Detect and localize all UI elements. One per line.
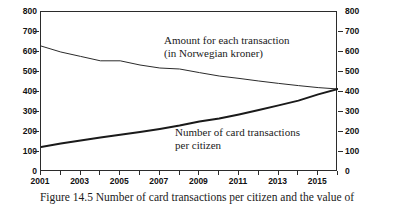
x-tick-label-2011: 2011 [229,177,247,186]
annotation-amount-line: Amount for each transaction (in Norwegia… [164,34,290,59]
x-tick-mark-2016 [337,171,338,175]
y-tick-label-right-500: 500 [345,67,359,75]
x-tick-label-2001: 2001 [31,177,50,186]
x-tick-mark-2005 [119,171,120,175]
annotation-amount-text-2: (in Norwegian kroner) [164,47,290,60]
x-tick-label-2007: 2007 [149,177,168,186]
x-tick-mark-2007 [159,171,160,175]
x-tick-mark-2009 [198,171,199,175]
x-tick-mark-2014 [297,171,298,175]
y-tick-mark-left-200 [34,131,39,132]
y-tick-label-right-600: 600 [345,47,359,55]
x-tick-label-2003: 2003 [70,177,89,186]
y-tick-mark-right-200 [338,131,343,132]
y-tick-mark-right-700 [338,31,343,32]
x-tick-mark-2006 [139,171,140,175]
x-tick-mark-2001 [40,171,41,175]
y-tick-label-right-0: 0 [345,167,350,175]
figure-caption: Figure 14.5 Number of card transactions … [0,190,394,204]
y-tick-label-right-400: 400 [345,87,359,95]
y-tick-label-right-100: 100 [345,147,359,155]
y-tick-mark-left-100 [34,151,39,152]
y-tick-mark-left-300 [34,111,39,112]
y-tick-mark-left-500 [34,71,39,72]
x-tick-label-2013: 2013 [268,177,287,186]
y-tick-mark-right-300 [338,111,343,112]
x-tick-mark-2003 [80,171,81,175]
x-tick-label-2005: 2005 [110,177,129,186]
x-tick-mark-2011 [238,171,239,175]
x-tick-mark-2013 [278,171,279,175]
y-tick-mark-right-600 [338,51,343,52]
x-tick-mark-2015 [317,171,318,175]
y-tick-label-left-800: 800 [23,7,37,15]
annotation-count-text-1: Number of card transactions [175,126,300,139]
annotation-amount-text-1: Amount for each transaction [164,34,290,47]
x-tick-mark-2004 [99,171,100,175]
y-tick-mark-left-700 [34,31,39,32]
annotation-count-text-2: per citizen [175,139,300,152]
x-tick-label-2015: 2015 [308,177,327,186]
figure-card-transactions: Amount for each transaction (in Norwegia… [0,0,394,211]
y-tick-mark-right-500 [338,71,343,72]
x-tick-mark-2008 [179,171,180,175]
y-tick-label-right-300: 300 [345,107,359,115]
y-tick-mark-right-100 [338,151,343,152]
y-tick-label-right-700: 700 [345,27,359,35]
x-tick-mark-2002 [60,171,61,175]
annotation-count-line: Number of card transactions per citizen [175,126,300,151]
x-tick-label-2009: 2009 [189,177,208,186]
y-tick-mark-left-400 [34,91,39,92]
y-tick-label-right-800: 800 [345,7,359,15]
y-tick-label-right-200: 200 [345,127,359,135]
y-tick-mark-right-400 [338,91,343,92]
y-tick-mark-left-600 [34,51,39,52]
x-tick-mark-2012 [258,171,259,175]
x-tick-mark-2010 [218,171,219,175]
y-tick-label-left-0: 0 [32,167,37,175]
